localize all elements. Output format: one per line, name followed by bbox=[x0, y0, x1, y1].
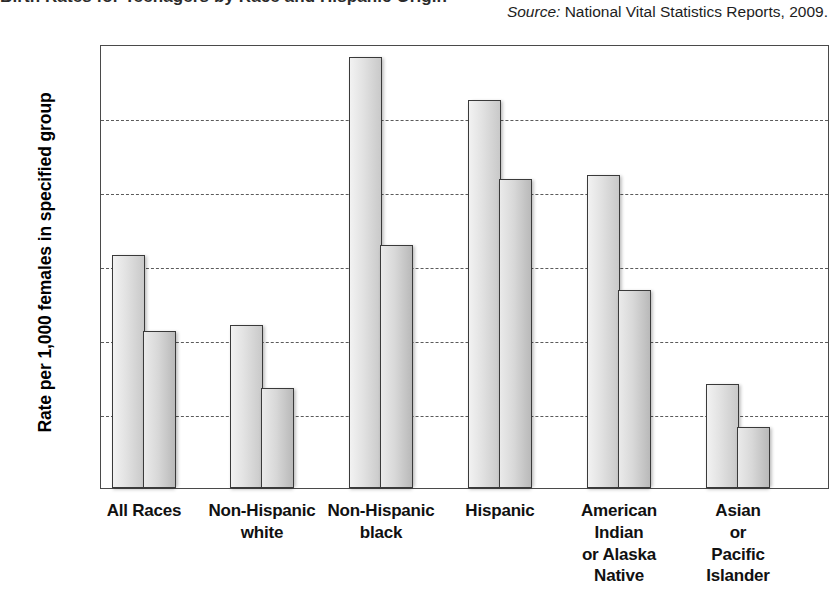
bar-group-0 bbox=[112, 46, 176, 488]
bar-3-series-2[interactable] bbox=[499, 179, 532, 488]
bar-4-series-2[interactable] bbox=[618, 290, 651, 488]
bar-group-3 bbox=[468, 46, 532, 488]
bar-5-series-1[interactable] bbox=[706, 384, 739, 488]
source-note: Source: National Vital Statistics Report… bbox=[507, 3, 828, 21]
x-category-label-line: Asian bbox=[663, 500, 813, 522]
bar-4-series-1[interactable] bbox=[587, 175, 620, 488]
bar-0-series-2[interactable] bbox=[143, 331, 176, 488]
x-category-label-5: AsianorPacificIslander bbox=[663, 500, 813, 587]
x-category-label-line: Pacific bbox=[663, 544, 813, 566]
x-category-label-line: or bbox=[663, 522, 813, 544]
bar-0-series-1[interactable] bbox=[112, 255, 145, 488]
source-label: Source: bbox=[507, 3, 560, 20]
bar-1-series-2[interactable] bbox=[261, 388, 294, 488]
bar-2-series-2[interactable] bbox=[380, 245, 413, 488]
bar-group-5 bbox=[706, 46, 770, 488]
bar-3-series-1[interactable] bbox=[468, 100, 501, 489]
x-category-label-line: Islander bbox=[663, 565, 813, 587]
source-text: National Vital Statistics Reports, 2009. bbox=[565, 3, 828, 20]
plot-area bbox=[100, 45, 829, 489]
bar-group-4 bbox=[587, 46, 651, 488]
bar-group-1 bbox=[230, 46, 294, 488]
x-category-label-line: black bbox=[306, 522, 456, 544]
bar-5-series-2[interactable] bbox=[737, 427, 770, 488]
y-axis-title: Rate per 1,000 females in specified grou… bbox=[35, 38, 56, 488]
bar-2-series-1[interactable] bbox=[349, 57, 382, 488]
bar-group-2 bbox=[349, 46, 413, 488]
bar-1-series-1[interactable] bbox=[230, 325, 263, 488]
